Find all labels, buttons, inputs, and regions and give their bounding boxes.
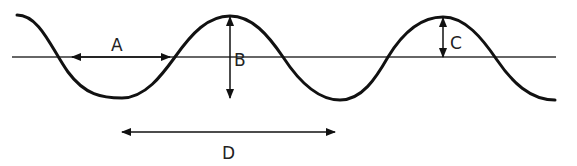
label-a: A: [111, 35, 123, 55]
annotation-d: D: [122, 132, 335, 163]
label-d: D: [222, 143, 235, 163]
annotation-a: A: [72, 35, 170, 57]
label-b: B: [234, 50, 246, 70]
wave-diagram-svg: A B C D: [0, 0, 577, 166]
label-c: C: [450, 33, 462, 53]
annotation-c: C: [443, 18, 462, 57]
wave-diagram: A B C D: [0, 0, 577, 166]
